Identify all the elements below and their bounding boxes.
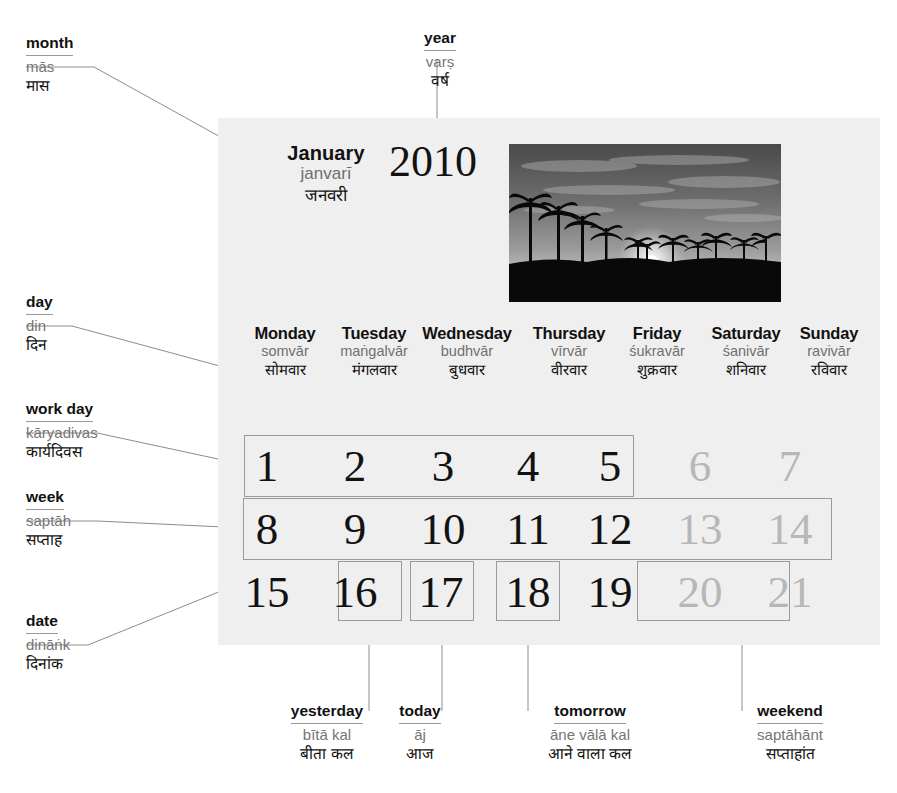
callout-date-hindi: दिनांक bbox=[26, 654, 70, 674]
weekday-sunday-translit: ravivār bbox=[780, 343, 878, 361]
date-cell-12[interactable]: 12 bbox=[579, 502, 641, 556]
date-cell-16[interactable]: 16 bbox=[324, 565, 386, 619]
callout-date: date dināṅk दिनांक bbox=[26, 612, 70, 675]
date-cell-1[interactable]: 1 bbox=[236, 439, 298, 493]
date-cell-4[interactable]: 4 bbox=[497, 439, 559, 493]
callout-week: week saptāh सप्ताह bbox=[26, 488, 71, 551]
callout-weekend: weekend saptāhānt सप्ताहांत bbox=[742, 702, 838, 765]
date-cell-19[interactable]: 19 bbox=[579, 565, 641, 619]
callout-yesterday-hindi: बीता कल bbox=[279, 744, 375, 764]
callout-tomorrow-en: tomorrow bbox=[554, 702, 625, 724]
callout-yesterday: yesterday bītā kal बीता कल bbox=[279, 702, 375, 765]
callout-date-translit: dināṅk bbox=[26, 634, 70, 655]
date-cell-10[interactable]: 10 bbox=[412, 502, 474, 556]
date-cell-18[interactable]: 18 bbox=[497, 565, 559, 619]
callout-tomorrow-translit: āne vālā kal bbox=[528, 724, 652, 745]
callout-month: month mās मास bbox=[26, 34, 73, 97]
callout-day-hindi: दिन bbox=[26, 335, 53, 355]
callout-week-translit: saptāh bbox=[26, 510, 71, 531]
weekday-wednesday-hindi: बुधवार bbox=[404, 360, 530, 380]
date-cell-9[interactable]: 9 bbox=[324, 502, 386, 556]
date-cell-5[interactable]: 5 bbox=[579, 439, 641, 493]
callout-day-translit: din bbox=[26, 315, 53, 336]
date-cell-8[interactable]: 8 bbox=[236, 502, 298, 556]
weekday-wednesday-en: Wednesday bbox=[404, 324, 530, 343]
callout-workday-translit: kāryadivas bbox=[26, 422, 98, 443]
callout-workday-en: work day bbox=[26, 400, 93, 422]
month-name-hindi: जनवरी bbox=[256, 185, 396, 206]
callout-workday-hindi: कार्यदिवस bbox=[26, 442, 98, 462]
date-cell-21[interactable]: 21 bbox=[759, 565, 821, 619]
callout-year: year varṣ वर्ष bbox=[410, 29, 470, 92]
callout-week-hindi: सप्ताह bbox=[26, 530, 71, 550]
date-cell-13[interactable]: 13 bbox=[669, 502, 731, 556]
date-cell-20[interactable]: 20 bbox=[669, 565, 731, 619]
callout-workday: work day kāryadivas कार्यदिवस bbox=[26, 400, 98, 463]
callout-year-en: year bbox=[424, 29, 456, 51]
callout-month-translit: mās bbox=[26, 56, 73, 77]
callout-year-translit: varṣ bbox=[410, 51, 470, 72]
year-value: 2010 bbox=[368, 140, 498, 184]
date-cell-2[interactable]: 2 bbox=[324, 439, 386, 493]
calendar-panel: January janvarī जनवरी 2010 bbox=[218, 118, 880, 645]
weekday-header-row: Monday somvār सोमवार Tuesday maṅgalvār म… bbox=[218, 324, 880, 396]
palm-trees-sunset-image bbox=[509, 144, 781, 302]
date-cell-11[interactable]: 11 bbox=[497, 502, 559, 556]
date-cell-6[interactable]: 6 bbox=[669, 439, 731, 493]
date-cell-7[interactable]: 7 bbox=[759, 439, 821, 493]
date-cell-14[interactable]: 14 bbox=[759, 502, 821, 556]
weekday-wednesday: Wednesday budhvār बुधवार bbox=[404, 324, 530, 380]
callout-today: today āj आज bbox=[394, 702, 446, 765]
callout-month-hindi: मास bbox=[26, 76, 73, 96]
date-cell-15[interactable]: 15 bbox=[236, 565, 298, 619]
callout-day: day din दिन bbox=[26, 293, 53, 356]
date-grid: 1 2 3 4 5 6 7 8 9 10 11 12 13 14 15 16 1… bbox=[218, 418, 880, 618]
callout-weekend-en: weekend bbox=[757, 702, 822, 724]
date-cell-3[interactable]: 3 bbox=[412, 439, 474, 493]
callout-week-en: week bbox=[26, 488, 64, 510]
callout-today-hindi: आज bbox=[394, 744, 446, 764]
weekday-wednesday-translit: budhvār bbox=[404, 343, 530, 361]
weekday-sunday-en: Sunday bbox=[780, 324, 878, 343]
callout-yesterday-translit: bītā kal bbox=[279, 724, 375, 745]
callout-weekend-hindi: सप्ताहांत bbox=[742, 744, 838, 764]
weekday-sunday: Sunday ravivār रविवार bbox=[780, 324, 878, 380]
callout-date-en: date bbox=[26, 612, 58, 634]
weekday-sunday-hindi: रविवार bbox=[780, 360, 878, 380]
calendar-photo bbox=[509, 144, 781, 302]
callout-weekend-translit: saptāhānt bbox=[742, 724, 838, 745]
callout-tomorrow: tomorrow āne vālā kal आने वाला कल bbox=[528, 702, 652, 765]
callout-month-en: month bbox=[26, 34, 73, 56]
callout-yesterday-en: yesterday bbox=[291, 702, 363, 724]
callout-today-translit: āj bbox=[394, 724, 446, 745]
calendar-infographic: month mās मास year varṣ वर्ष day din दिन… bbox=[0, 0, 897, 793]
callout-tomorrow-hindi: आने वाला कल bbox=[528, 744, 652, 764]
callout-year-hindi: वर्ष bbox=[410, 71, 470, 91]
date-cell-17[interactable]: 17 bbox=[410, 565, 472, 619]
callout-today-en: today bbox=[399, 702, 440, 724]
callout-day-en: day bbox=[26, 293, 53, 315]
